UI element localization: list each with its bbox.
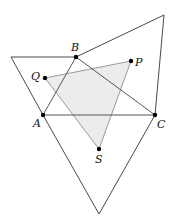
label-c: C: [157, 118, 166, 131]
label-q: Q: [31, 70, 40, 83]
point-q: [43, 76, 47, 80]
label-s: S: [95, 153, 103, 166]
label-p: P: [134, 56, 143, 69]
label-b: B: [70, 41, 79, 54]
triangle-pqs: [45, 61, 131, 149]
label-a: A: [32, 117, 41, 130]
point-p: [129, 59, 133, 63]
point-b: [74, 55, 78, 59]
point-a: [41, 113, 45, 117]
geometry-diagram: A B C P Q S: [0, 0, 177, 223]
point-c: [153, 113, 157, 117]
point-s: [97, 147, 101, 151]
